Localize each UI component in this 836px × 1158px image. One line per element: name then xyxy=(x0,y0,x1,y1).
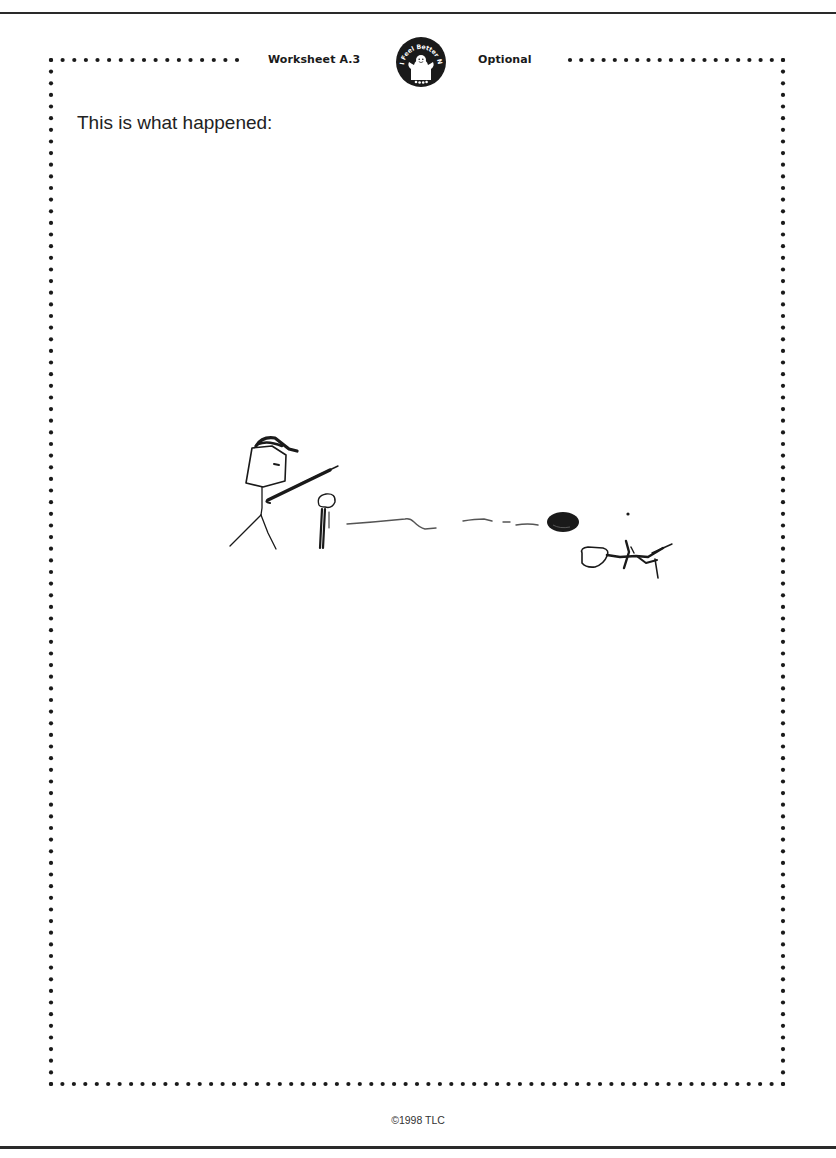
copyright-text: ©1998 TLC xyxy=(0,1114,836,1126)
dog-icon xyxy=(582,541,672,578)
tee-icon xyxy=(318,494,335,548)
ball-icon xyxy=(547,512,579,532)
stick-figure-icon xyxy=(230,438,297,549)
bottom-rule xyxy=(0,1146,836,1149)
dot-mark xyxy=(626,512,629,515)
child-drawing xyxy=(0,0,836,1158)
bat-icon xyxy=(266,466,338,503)
ball-trajectory-icon xyxy=(347,519,538,529)
